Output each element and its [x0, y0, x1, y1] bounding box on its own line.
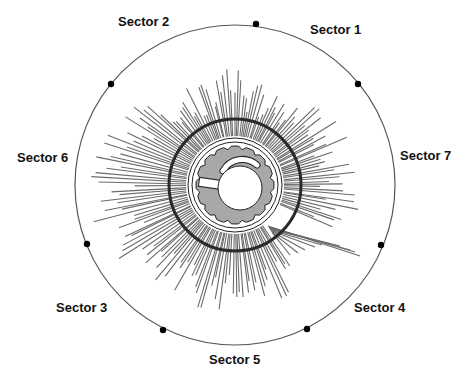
- ray-line: [283, 184, 342, 185]
- ray-line: [280, 201, 334, 220]
- diagram-canvas: [0, 0, 467, 384]
- ray-line: [281, 200, 342, 220]
- ray-line: [283, 188, 343, 191]
- ray-line: [244, 232, 255, 290]
- sector-diagram: Sector 2 Sector 1 Sector 7 Sector 6 Sect…: [0, 0, 467, 384]
- boundary-dot: [160, 327, 166, 333]
- ray-line: [233, 233, 234, 293]
- sector-3-label: Sector 3: [56, 300, 107, 315]
- ray-line: [283, 181, 329, 183]
- ray-line: [236, 233, 237, 297]
- boundary-dot: [84, 241, 90, 247]
- sector-7-label: Sector 7: [400, 148, 451, 163]
- sector-1-label: Sector 1: [310, 22, 361, 37]
- ray-line: [165, 223, 206, 276]
- sector-6-label: Sector 6: [17, 150, 68, 165]
- ray-line: [99, 182, 187, 184]
- boundary-dot: [355, 81, 361, 87]
- ray-line: [271, 109, 320, 153]
- boundary-dot: [108, 81, 114, 87]
- boundary-dot: [304, 326, 310, 332]
- sector-2-label: Sector 2: [118, 14, 169, 29]
- ray-line: [154, 214, 197, 246]
- sector-5-label: Sector 5: [209, 352, 260, 367]
- sector-4-label: Sector 4: [354, 300, 405, 315]
- boundary-dot: [378, 242, 384, 248]
- boundary-dot: [253, 21, 259, 27]
- ray-line: [246, 86, 258, 138]
- central-hole: [218, 166, 262, 210]
- central-core: [186, 136, 284, 234]
